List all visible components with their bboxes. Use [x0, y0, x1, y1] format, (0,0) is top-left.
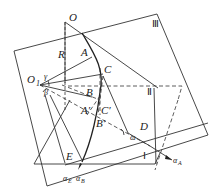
label-c: C	[104, 63, 112, 75]
label-plane-3: Ⅲ	[152, 18, 159, 29]
left-line-1	[34, 100, 70, 164]
label-o1: O	[27, 73, 35, 85]
label-a: A	[80, 46, 88, 58]
label-alpha-b-sub: B	[81, 178, 85, 184]
angle-omega-arc	[121, 129, 124, 135]
label-o: O	[69, 11, 77, 23]
label-e: E	[65, 150, 73, 162]
dashed-b-horizontal	[62, 85, 100, 100]
label-plane-2: Ⅱ	[147, 86, 152, 97]
label-alpha-a-sub: A	[177, 160, 182, 166]
label-a-prime: A′	[80, 104, 91, 116]
plane-2-right-edge	[154, 88, 156, 164]
diagram-canvas: O R A C B A′ C′ B′ D E O 1 γ β ω Ⅲ Ⅱ Ⅰ α…	[0, 0, 217, 194]
label-beta: β	[43, 88, 48, 97]
label-c-prime: C′	[101, 104, 111, 116]
label-d: D	[139, 120, 148, 132]
arrow-alpha-a-icon	[165, 155, 172, 160]
label-gamma: γ	[44, 72, 48, 81]
label-r: R	[57, 48, 65, 60]
label-o1-subscript: 1	[36, 79, 40, 88]
label-alpha-e-sub: E	[67, 178, 72, 184]
label-plane-1: Ⅰ	[143, 150, 146, 161]
label-b: B	[86, 86, 93, 98]
label-b-prime: B′	[96, 117, 106, 129]
label-omega: ω	[130, 133, 136, 142]
plane-1-edge-bottom	[34, 153, 160, 164]
plane-1-edge-top	[65, 123, 208, 165]
